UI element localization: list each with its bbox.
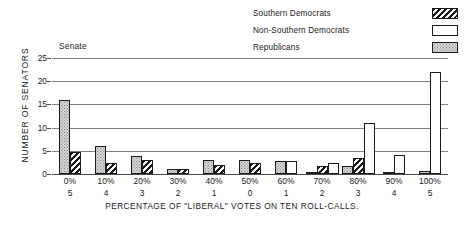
bar-group-100pct xyxy=(412,58,448,174)
bar-republicans-0pct[interactable] xyxy=(59,100,70,174)
bar-groups xyxy=(52,58,448,174)
legend-label-southern-democrats: Southern Democrats xyxy=(253,9,331,18)
bar-group-30pct xyxy=(160,58,196,174)
legend-item-republicans: Republicans xyxy=(253,40,458,55)
x-tick-group-80pct: 80%3 xyxy=(340,175,376,199)
bar-republicans-20pct[interactable] xyxy=(131,156,142,174)
bar-republicans-50pct[interactable] xyxy=(239,160,250,174)
x-tick-count-label: 4 xyxy=(376,187,412,199)
x-tick-percent-label: 30% xyxy=(160,175,196,187)
senate-roll-call-bar-chart: Southern Democrats Non-Southern Democrat… xyxy=(0,0,464,229)
bar-southern-democrats-0pct[interactable] xyxy=(70,152,81,174)
bar-republicans-60pct[interactable] xyxy=(275,161,286,174)
bar-southern-democrats-40pct[interactable] xyxy=(214,165,225,174)
bar-southern-democrats-50pct[interactable] xyxy=(250,163,261,174)
bar-republicans-40pct[interactable] xyxy=(203,160,214,174)
x-tick-percent-label: 90% xyxy=(376,175,412,187)
bar-republicans-30pct[interactable] xyxy=(167,169,178,174)
y-tick-mark-25 xyxy=(47,58,51,59)
bar-group-70pct xyxy=(304,58,340,174)
x-axis-title: PERCENTAGE OF "LIBERAL" VOTES ON TEN ROL… xyxy=(0,201,464,211)
bar-republicans-80pct[interactable] xyxy=(342,166,353,174)
bar-group-80pct xyxy=(340,58,376,174)
y-tick-label-10: 10 xyxy=(38,123,47,131)
x-tick-group-90pct: 90%4 xyxy=(376,175,412,199)
x-tick-percent-label: 20% xyxy=(124,175,160,187)
bar-southern-democrats-20pct[interactable] xyxy=(142,160,153,174)
bar-non-southern-democrats-70pct[interactable] xyxy=(328,163,339,174)
legend-swatch-non-southern-democrats xyxy=(432,25,458,36)
bar-republicans-100pct[interactable] xyxy=(419,171,430,174)
x-tick-count-label: 2 xyxy=(304,187,340,199)
legend-item-southern-democrats: Southern Democrats xyxy=(253,6,458,21)
bar-republicans-70pct[interactable] xyxy=(306,172,317,174)
bar-republicans-90pct[interactable] xyxy=(383,172,394,174)
legend-swatch-republicans xyxy=(432,42,458,53)
x-tick-count-label: 3 xyxy=(124,187,160,199)
legend-item-non-southern-democrats: Non-Southern Democrats xyxy=(253,23,458,38)
bar-non-southern-democrats-80pct[interactable] xyxy=(364,123,375,174)
x-tick-percent-label: 100% xyxy=(412,175,448,187)
x-tick-group-70pct: 70%2 xyxy=(304,175,340,199)
x-axis-ticks: 0%510%420%330%240%150%060%170%280%390%41… xyxy=(52,175,448,199)
legend-label-republicans: Republicans xyxy=(253,43,300,52)
plot-area: 0510152025 xyxy=(52,58,448,174)
x-tick-count-label: 5 xyxy=(52,187,88,199)
x-tick-count-label: 1 xyxy=(196,187,232,199)
x-tick-group-10pct: 10%4 xyxy=(88,175,124,199)
bar-group-10pct xyxy=(88,58,124,174)
legend-label-non-southern-democrats: Non-Southern Democrats xyxy=(253,26,349,35)
y-tick-mark-20 xyxy=(47,81,51,82)
bar-non-southern-democrats-100pct[interactable] xyxy=(430,72,441,174)
bar-southern-democrats-70pct[interactable] xyxy=(317,166,328,174)
x-tick-count-label: 5 xyxy=(412,187,448,199)
bar-group-40pct xyxy=(196,58,232,174)
x-tick-group-0pct: 0%5 xyxy=(52,175,88,199)
x-tick-group-20pct: 20%3 xyxy=(124,175,160,199)
bar-non-southern-democrats-90pct[interactable] xyxy=(394,155,405,174)
bar-group-20pct xyxy=(124,58,160,174)
x-tick-percent-label: 80% xyxy=(340,175,376,187)
x-tick-percent-label: 60% xyxy=(268,175,304,187)
x-tick-percent-label: 50% xyxy=(232,175,268,187)
panel-label-senate: Senate xyxy=(59,41,87,51)
bar-group-0pct xyxy=(52,58,88,174)
y-axis-title: NUMBER OF SENATORS xyxy=(20,30,30,180)
bar-group-90pct xyxy=(376,58,412,174)
y-tick-mark-5 xyxy=(47,151,51,152)
x-tick-count-label: 1 xyxy=(268,187,304,199)
chart-legend: Southern Democrats Non-Southern Democrat… xyxy=(253,6,458,57)
x-tick-count-label: 2 xyxy=(160,187,196,199)
y-tick-label-20: 20 xyxy=(38,77,47,85)
x-tick-group-30pct: 30%2 xyxy=(160,175,196,199)
x-tick-count-label: 3 xyxy=(340,187,376,199)
y-tick-mark-0 xyxy=(47,174,51,175)
x-tick-percent-label: 10% xyxy=(88,175,124,187)
y-tick-label-15: 15 xyxy=(38,100,47,108)
bar-group-50pct xyxy=(232,58,268,174)
bar-southern-democrats-30pct[interactable] xyxy=(178,169,189,174)
x-tick-group-60pct: 60%1 xyxy=(268,175,304,199)
x-tick-percent-label: 40% xyxy=(196,175,232,187)
x-tick-group-50pct: 50%0 xyxy=(232,175,268,199)
x-tick-count-label: 4 xyxy=(88,187,124,199)
bar-group-60pct xyxy=(268,58,304,174)
y-tick-label-25: 25 xyxy=(38,54,47,62)
y-tick-mark-15 xyxy=(47,104,51,105)
x-tick-count-label: 0 xyxy=(232,187,268,199)
x-tick-percent-label: 70% xyxy=(304,175,340,187)
x-tick-percent-label: 0% xyxy=(52,175,88,187)
bar-republicans-10pct[interactable] xyxy=(95,146,106,174)
x-tick-group-100pct: 100%5 xyxy=(412,175,448,199)
legend-swatch-southern-democrats xyxy=(432,8,458,19)
y-tick-mark-10 xyxy=(47,128,51,129)
x-tick-group-40pct: 40%1 xyxy=(196,175,232,199)
bar-southern-democrats-80pct[interactable] xyxy=(353,158,364,174)
bar-southern-democrats-10pct[interactable] xyxy=(106,163,117,174)
bar-non-southern-democrats-60pct[interactable] xyxy=(286,161,297,174)
